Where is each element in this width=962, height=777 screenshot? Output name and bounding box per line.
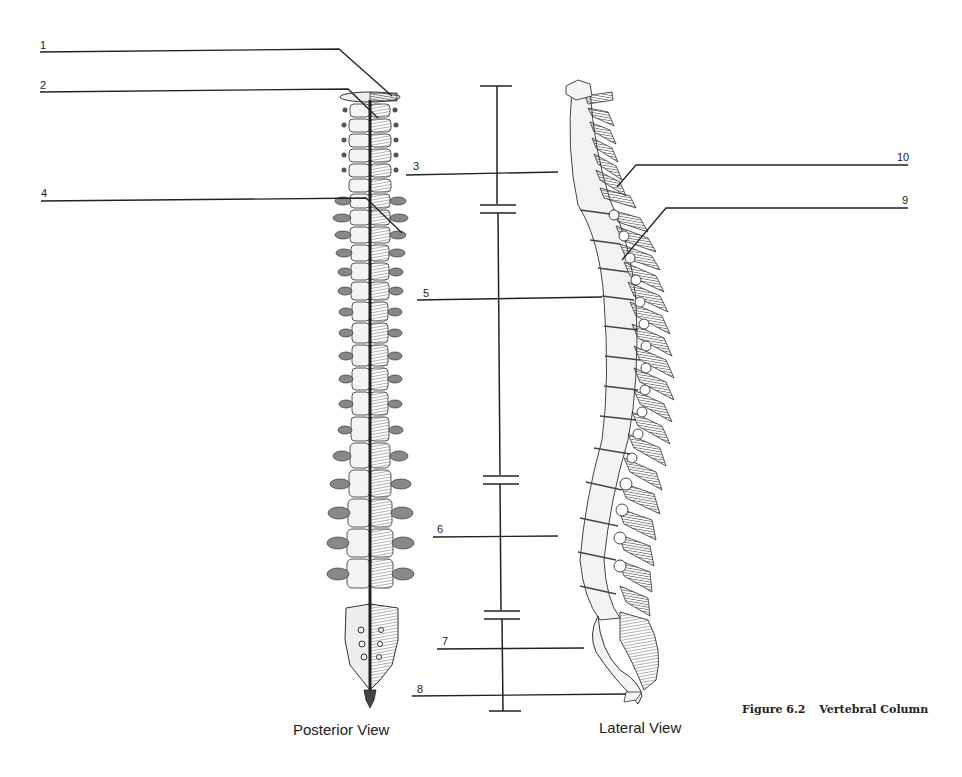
region-scale-bar	[480, 86, 521, 711]
label-3: 3	[413, 161, 419, 172]
figure-title: Vertebral Column	[819, 703, 928, 716]
label-6: 6	[437, 524, 443, 535]
label-2: 2	[40, 80, 46, 91]
leader-lines	[40, 49, 908, 696]
posterior-view-spine	[327, 92, 414, 708]
label-1: 1	[40, 40, 46, 51]
label-8: 8	[417, 684, 423, 695]
label-4: 4	[41, 188, 47, 199]
vertebral-column-diagram	[0, 0, 962, 777]
label-5: 5	[423, 288, 429, 299]
posterior-view-caption: Posterior View	[293, 721, 389, 738]
figure-caption: Figure 6.2 Vertebral Column	[742, 703, 928, 716]
label-10: 10	[897, 152, 909, 163]
label-9: 9	[902, 195, 908, 206]
label-7: 7	[442, 636, 448, 647]
lateral-view-spine	[566, 80, 674, 704]
figure-number: Figure 6.2	[742, 703, 805, 716]
lateral-view-caption: Lateral View	[599, 719, 681, 736]
